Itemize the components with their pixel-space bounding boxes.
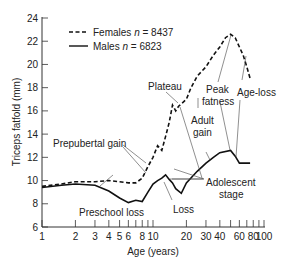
x-tick-label: 2 (73, 231, 79, 242)
y-axis-title: Triceps fatfold (mm) (11, 78, 22, 167)
x-tick-label: 6 (126, 231, 132, 242)
y-tick-label: 6 (32, 222, 38, 233)
x-tick-label: 60 (234, 231, 246, 242)
leader-plateau (166, 92, 178, 103)
y-tick-label: 18 (27, 82, 39, 93)
triceps-fatfold-chart: 681012141618202224 123456810203040608010… (0, 0, 293, 268)
x-tick-label: 10 (147, 231, 159, 242)
leader-loss (164, 182, 172, 200)
annotation-adolescent-line2: stage (219, 189, 244, 200)
annotation-peak-line2: fatness (202, 96, 234, 107)
x-tick-label: 20 (181, 231, 193, 242)
leader-peak-male (220, 102, 230, 150)
x-tick-label: 4 (106, 231, 112, 242)
females-series-line (42, 34, 250, 186)
y-tick-label: 14 (27, 129, 39, 140)
annotation-loss: Loss (173, 204, 194, 215)
y-tick-label: 24 (27, 13, 39, 24)
leader-peak (218, 35, 231, 82)
x-axis-title: Age (years) (127, 246, 179, 257)
annotation-ageloss: Age-loss (237, 87, 276, 98)
annotation-peak-line1: Peak (206, 84, 230, 95)
y-tick-label: 12 (27, 152, 39, 163)
annotation-preschool: Preschool loss (79, 207, 144, 218)
annotations: Plateau Peak fatness Age-loss Adult gain… (53, 81, 276, 218)
y-tick-label: 16 (27, 105, 39, 116)
y-tick-label: 20 (27, 59, 39, 70)
x-tick-label: 100 (256, 231, 273, 242)
leader-ageloss-female (242, 56, 246, 80)
x-tick-label: 1 (39, 231, 45, 242)
legend: Females n = 8437 Males n = 6823 (69, 27, 174, 52)
y-ticks: 681012141618202224 (27, 13, 48, 233)
annotation-leaders (100, 35, 246, 200)
legend-females-label: Females n = 8437 (93, 27, 174, 38)
x-tick-label: 30 (200, 231, 212, 242)
x-tick-label: 8 (139, 231, 145, 242)
leader-ageloss-male (236, 100, 240, 157)
y-tick-label: 10 (27, 175, 39, 186)
annotation-adult-line2: gain (193, 127, 212, 138)
legend-males-label: Males n = 6823 (93, 41, 162, 52)
annotation-adolescent-line1: Adolescent (206, 177, 256, 188)
annotation-prepubertal: Prepubertal gain (53, 138, 126, 149)
x-tick-label: 3 (92, 231, 98, 242)
y-tick-label: 8 (32, 198, 38, 209)
x-tick-label: 5 (117, 231, 123, 242)
annotation-adult-line1: Adult (191, 115, 214, 126)
x-ticks: 1234568102030406080100 (39, 220, 273, 242)
leader-adult-male (206, 152, 210, 160)
annotation-plateau: Plateau (148, 81, 182, 92)
x-tick-label: 40 (214, 231, 226, 242)
y-tick-label: 22 (27, 36, 39, 47)
